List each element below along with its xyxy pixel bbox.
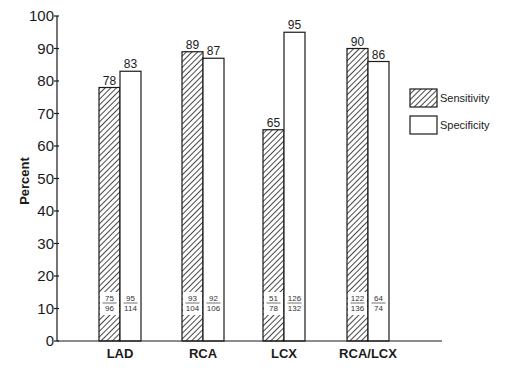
fraction-numerator: 64 [374, 294, 383, 303]
fraction-denominator: 74 [374, 304, 383, 313]
y-tick-label: 70 [37, 105, 54, 122]
y-tick-label: 60 [37, 137, 54, 154]
fraction-numerator: 95 [126, 294, 135, 303]
bar-group-lcx: 65517895126132 [263, 18, 305, 341]
x-category-label: LCX [271, 346, 297, 361]
bar-chart: 0102030405060708090100 78759683951148993… [0, 0, 512, 373]
fraction-denominator: 104 [186, 304, 200, 313]
fraction-denominator: 114 [124, 304, 137, 313]
y-tick-label: 0 [46, 332, 54, 349]
x-category-label: RCA/LCX [339, 346, 397, 361]
legend-swatch-sensitivity [410, 89, 437, 107]
y-axis: 0102030405060708090100 [29, 7, 59, 349]
x-category-label: RCA [189, 346, 218, 361]
legend-label-sensitivity: Sensitivity [440, 92, 490, 104]
bar-group-lad: 7875968395114 [99, 57, 141, 341]
y-tick-label: 100 [29, 7, 54, 24]
bar-value-label: 65 [267, 116, 281, 130]
y-tick-label: 20 [37, 267, 54, 284]
fraction-denominator: 132 [288, 304, 302, 313]
fraction-denominator: 106 [207, 304, 221, 313]
fraction-denominator: 78 [269, 304, 278, 313]
bars: 7875968395114899310487921066551789512613… [99, 18, 389, 341]
y-tick-label: 90 [37, 40, 54, 57]
legend-swatch-specificity [410, 116, 437, 134]
y-axis-title: Percent [17, 156, 32, 204]
bar-value-label: 83 [124, 57, 138, 71]
legend-label-specificity: Specificity [440, 119, 490, 131]
y-tick-label: 30 [37, 235, 54, 252]
bar-value-label: 87 [207, 44, 221, 58]
bar-value-label: 86 [372, 48, 386, 62]
fraction-numerator: 93 [188, 294, 197, 303]
x-category-label: LAD [107, 346, 134, 361]
bar-value-label: 89 [186, 38, 200, 52]
fraction-numerator: 51 [269, 294, 278, 303]
bar-value-label: 95 [288, 18, 302, 32]
y-tick-label: 80 [37, 72, 54, 89]
fraction-denominator: 96 [105, 304, 114, 313]
bar-group-rca: 89931048792106 [182, 38, 224, 341]
fraction-denominator: 136 [351, 304, 365, 313]
fraction-numerator: 75 [105, 294, 114, 303]
fraction-numerator: 126 [288, 294, 302, 303]
x-axis: LADRCALCXRCA/LCX [57, 341, 442, 361]
y-tick-label: 40 [37, 202, 54, 219]
fraction-numerator: 122 [351, 294, 365, 303]
bar-value-label: 78 [103, 74, 117, 88]
bar-value-label: 90 [351, 35, 365, 49]
y-tick-label: 10 [37, 300, 54, 317]
fraction-numerator: 92 [209, 294, 218, 303]
legend: SensitivitySpecificity [410, 89, 490, 134]
y-tick-label: 50 [37, 170, 54, 187]
bar-group-rca-lcx: 90122136866474 [347, 35, 389, 342]
